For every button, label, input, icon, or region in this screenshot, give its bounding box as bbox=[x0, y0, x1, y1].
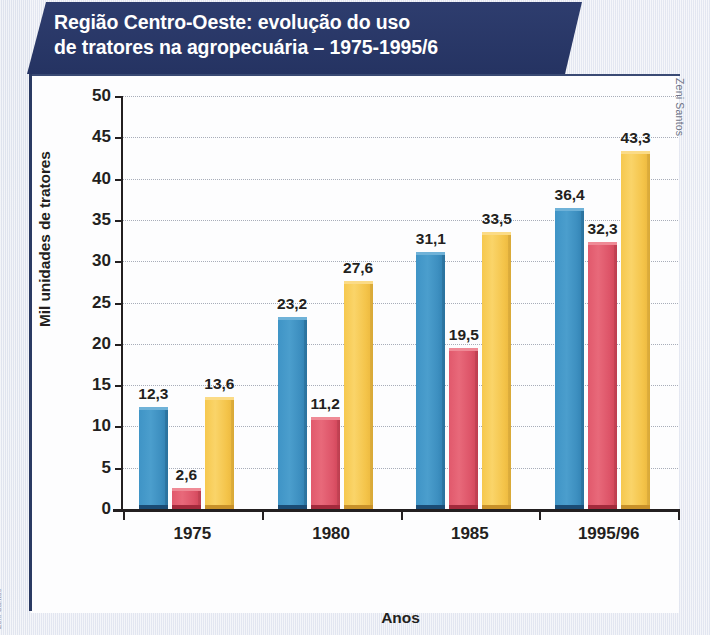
x-axis-tick bbox=[262, 509, 264, 520]
page-left-gutter: Zeni Santos bbox=[0, 0, 30, 635]
bar-value-label: 36,4 bbox=[555, 186, 585, 204]
y-axis-tick bbox=[115, 468, 123, 470]
y-axis-tick-label: 15 bbox=[92, 375, 111, 395]
bar-base-shadow bbox=[449, 505, 478, 509]
y-axis-tick-label: 50 bbox=[92, 86, 111, 106]
bar-base-shadow bbox=[278, 505, 307, 509]
bar[interactable]: 32,3 bbox=[588, 242, 617, 509]
y-axis-tick-label: 20 bbox=[92, 334, 111, 354]
bar-group: 31,119,533,5 bbox=[401, 96, 540, 509]
bar-top-highlight bbox=[621, 151, 650, 154]
bar-top-highlight bbox=[482, 232, 511, 235]
plot-area: 05101520253035404550 12,32,613,623,211,2… bbox=[123, 96, 678, 509]
y-axis-tick bbox=[115, 179, 123, 181]
x-axis-category-label: 1995/96 bbox=[578, 524, 639, 544]
x-axis-tick bbox=[539, 509, 541, 520]
bar-body bbox=[311, 417, 340, 510]
y-axis-tick bbox=[115, 303, 123, 305]
bar[interactable]: 19,5 bbox=[449, 348, 478, 509]
y-axis-tick bbox=[115, 426, 123, 428]
bar-base-shadow bbox=[172, 505, 201, 509]
bar-base-shadow bbox=[139, 505, 168, 509]
bar-top-highlight bbox=[278, 317, 307, 320]
chart-title: Região Centro-Oeste: evolução do uso de … bbox=[54, 10, 564, 60]
bar-value-label: 31,1 bbox=[416, 230, 446, 248]
bar-value-label: 33,5 bbox=[482, 210, 512, 228]
bar-body bbox=[416, 252, 445, 509]
y-axis-tick bbox=[115, 261, 123, 263]
y-axis-tick-label: 0 bbox=[102, 499, 111, 519]
x-axis-line bbox=[113, 509, 678, 512]
y-axis-tick-label: 40 bbox=[92, 169, 111, 189]
bar[interactable]: 2,6 bbox=[172, 488, 201, 509]
bar-value-label: 2,6 bbox=[176, 466, 198, 484]
y-axis-tick bbox=[115, 344, 123, 346]
bar[interactable]: 13,6 bbox=[205, 397, 234, 509]
x-axis-title: Anos bbox=[123, 609, 678, 627]
x-axis-category-label: 1980 bbox=[312, 524, 350, 544]
chart: Mil unidades de tratores 051015202530354… bbox=[31, 76, 679, 613]
y-axis-title: Mil unidades de tratores bbox=[36, 151, 54, 327]
bar-base-shadow bbox=[621, 505, 650, 509]
bar-body bbox=[449, 348, 478, 509]
bar-body bbox=[139, 407, 168, 509]
bar-group: 36,432,343,3 bbox=[539, 96, 678, 509]
bar-group: 23,211,227,6 bbox=[262, 96, 401, 509]
bar-body bbox=[588, 242, 617, 509]
bar[interactable]: 12,3 bbox=[139, 407, 168, 509]
bar[interactable]: 31,1 bbox=[416, 252, 445, 509]
bar-body bbox=[482, 232, 511, 509]
bar-value-label: 32,3 bbox=[588, 220, 618, 238]
y-axis-tick-label: 30 bbox=[92, 251, 111, 271]
bar-top-highlight bbox=[205, 397, 234, 400]
bar-group: 12,32,613,6 bbox=[123, 96, 262, 509]
y-axis-tick-label: 5 bbox=[102, 458, 111, 478]
bar-value-label: 19,5 bbox=[449, 326, 479, 344]
y-axis-tick-label: 25 bbox=[92, 293, 111, 313]
bar[interactable]: 36,4 bbox=[555, 208, 584, 509]
bar-top-highlight bbox=[139, 407, 168, 410]
bar-value-label: 12,3 bbox=[138, 385, 168, 403]
x-axis-category-label: 1985 bbox=[451, 524, 489, 544]
bar-body bbox=[621, 151, 650, 509]
y-axis-tick-label: 45 bbox=[92, 127, 111, 147]
x-axis-tick bbox=[123, 509, 125, 520]
bar-value-label: 23,2 bbox=[277, 295, 307, 313]
bar-body bbox=[205, 397, 234, 509]
bar[interactable]: 27,6 bbox=[344, 281, 373, 509]
bar-body bbox=[555, 208, 584, 509]
x-axis-tick bbox=[678, 509, 680, 520]
x-axis-tick bbox=[401, 509, 403, 520]
bar[interactable]: 43,3 bbox=[621, 151, 650, 509]
bar-base-shadow bbox=[482, 505, 511, 509]
y-axis-tick bbox=[115, 509, 123, 511]
bar-value-label: 43,3 bbox=[621, 129, 651, 147]
y-axis-tick bbox=[115, 137, 123, 139]
bar-top-highlight bbox=[416, 252, 445, 255]
bar-top-highlight bbox=[311, 417, 340, 420]
bar-top-highlight bbox=[344, 281, 373, 284]
bar-top-highlight bbox=[449, 348, 478, 351]
margin-credit-text: Zeni Santos bbox=[0, 509, 2, 629]
bar-base-shadow bbox=[416, 505, 445, 509]
bar-body bbox=[344, 281, 373, 509]
bar-value-label: 11,2 bbox=[310, 395, 339, 413]
bar-base-shadow bbox=[555, 505, 584, 509]
bar[interactable]: 33,5 bbox=[482, 232, 511, 509]
bar-top-highlight bbox=[172, 488, 201, 491]
bar-body bbox=[278, 317, 307, 509]
y-axis-tick-label: 10 bbox=[92, 416, 111, 436]
bar-base-shadow bbox=[588, 505, 617, 509]
bar-top-highlight bbox=[588, 242, 617, 245]
bar-base-shadow bbox=[311, 505, 340, 509]
bar[interactable]: 23,2 bbox=[278, 317, 307, 509]
y-axis-tick-label: 35 bbox=[92, 210, 111, 230]
y-axis-tick bbox=[115, 220, 123, 222]
x-axis-category-label: 1975 bbox=[173, 524, 211, 544]
bar-value-label: 13,6 bbox=[204, 375, 234, 393]
bar-base-shadow bbox=[205, 505, 234, 509]
bar-top-highlight bbox=[555, 208, 584, 211]
bar[interactable]: 11,2 bbox=[311, 417, 340, 510]
y-axis-tick bbox=[115, 96, 123, 98]
bar-base-shadow bbox=[344, 505, 373, 509]
